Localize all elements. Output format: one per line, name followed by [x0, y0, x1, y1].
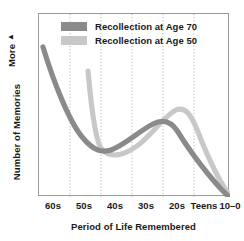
- y-axis-title: Number of Memories: [11, 71, 25, 193]
- x-tick-label-40s: 40s: [107, 199, 123, 212]
- x-axis-title: Period of Life Remembered: [38, 221, 229, 232]
- x-tick-label-20s: 20s: [169, 199, 185, 212]
- plot-area: Recollection at Age 70 Recollection at A…: [38, 13, 229, 196]
- x-tick-label-60s: 60s: [45, 199, 61, 212]
- x-tick-label-10-0: 10–0: [219, 199, 240, 212]
- series-line-recollection-age-70: [43, 47, 229, 197]
- arrow-up-icon: ▲: [7, 33, 15, 41]
- y-axis-more-text: More: [6, 44, 17, 67]
- x-tick-label-30s: 30s: [138, 199, 154, 212]
- legend-swatch-age-70: [61, 22, 87, 31]
- legend-label-age-70: Recollection at Age 70: [95, 21, 197, 32]
- x-axis-tick-labels: 60s 50s 40s 30s 20s Teens 10–0: [38, 199, 229, 213]
- legend-swatch-age-50: [61, 36, 87, 45]
- y-axis: More ▲ Number of Memories: [0, 13, 38, 196]
- legend-label-age-50: Recollection at Age 50: [95, 35, 197, 46]
- x-tick-label-teens: Teens: [191, 199, 218, 212]
- x-tick-label-50s: 50s: [76, 199, 92, 212]
- chart-figure: More ▲ Number of Memories Recollection a…: [0, 0, 244, 241]
- legend-item: Recollection at Age 70: [61, 21, 197, 32]
- legend-item: Recollection at Age 50: [61, 35, 197, 46]
- chart-legend: Recollection at Age 70 Recollection at A…: [61, 21, 197, 46]
